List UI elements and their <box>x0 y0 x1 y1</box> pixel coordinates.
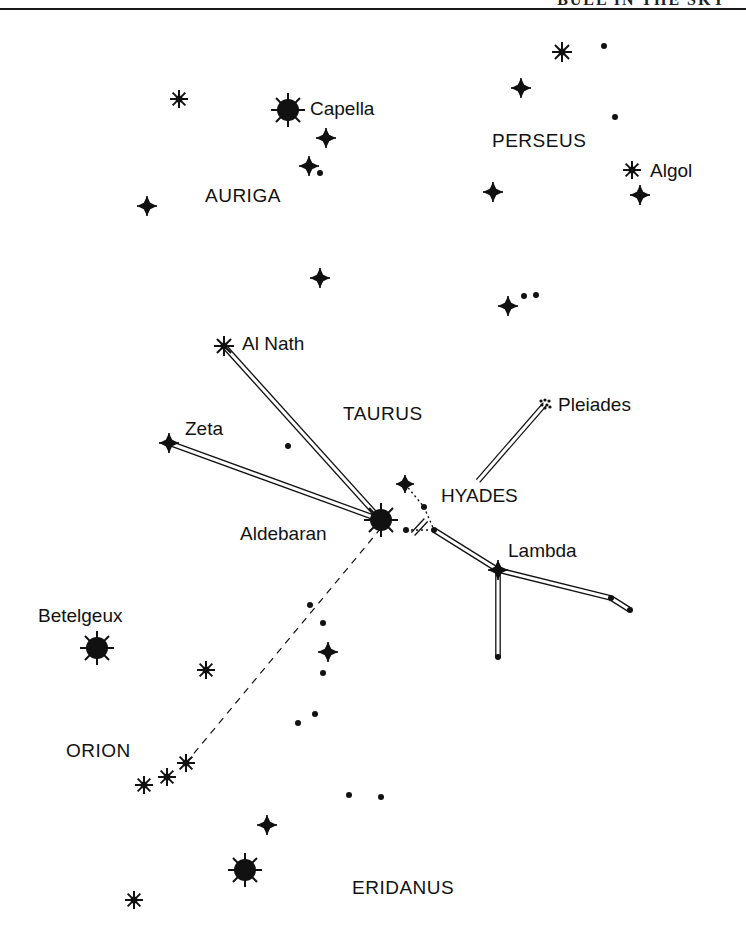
cross-star-icon <box>137 196 157 216</box>
cross-star-icon <box>257 815 277 835</box>
asterisk-star-icon <box>177 754 195 772</box>
faint-star-dot <box>533 292 539 298</box>
star-name-label: HYADES <box>441 485 518 506</box>
faint-star-dot <box>627 607 633 613</box>
constellation-label: ERIDANUS <box>352 877 454 898</box>
star-name-label: Capella <box>310 98 375 119</box>
star-name-label: Aldebaran <box>240 523 327 544</box>
cross-star-icon <box>310 268 330 288</box>
faint-star-dot <box>285 443 291 449</box>
faint-star-dot <box>521 293 527 299</box>
cross-star-icon <box>396 475 414 493</box>
double-line <box>433 528 499 572</box>
constellation-label: TAURUS <box>343 403 423 424</box>
bright-star-icon <box>80 631 114 665</box>
star-name-label: Al Nath <box>242 333 304 354</box>
asterisk-star-icon <box>197 661 215 679</box>
constellation-label: AURIGA <box>205 185 281 206</box>
cross-star-icon <box>316 128 336 148</box>
faint-star-dot <box>307 602 313 608</box>
asterisk-star-icon <box>552 42 572 62</box>
faint-star-dot <box>601 43 607 49</box>
asterisk-star-icon <box>170 90 188 108</box>
faint-star-dot <box>312 711 318 717</box>
double-line <box>222 345 382 522</box>
asterisk-star-icon <box>623 161 641 179</box>
constellation-label: ORION <box>66 740 131 761</box>
cross-star-icon <box>511 78 531 98</box>
star-name-label: Zeta <box>185 418 223 439</box>
star-name-label: Pleiades <box>558 394 631 415</box>
faint-star-dot <box>431 527 437 533</box>
double-line <box>496 570 500 657</box>
cross-star-icon <box>630 185 650 205</box>
asterisk-star-icon <box>125 891 143 909</box>
cross-star-icon <box>159 433 179 453</box>
star-name-label: Lambda <box>508 540 577 561</box>
pleiades-cluster-icon <box>539 398 551 409</box>
dashed-line <box>186 528 381 763</box>
double-line <box>497 568 611 600</box>
bright-star-icon <box>228 853 262 887</box>
faint-star-dot <box>403 527 409 533</box>
faint-star-dot <box>378 794 384 800</box>
asterisk-star-icon <box>135 776 153 794</box>
double-line <box>411 519 427 536</box>
star-field <box>80 42 650 909</box>
faint-star-dot <box>612 114 618 120</box>
cross-star-icon <box>498 296 518 316</box>
asterisk-star-icon <box>158 768 176 786</box>
star-name-label: Betelgeux <box>38 605 123 626</box>
bright-star-icon <box>271 93 305 127</box>
star-chart: AURIGAPERSEUSTAURUSORIONERIDANUSCapellaA… <box>0 0 746 952</box>
star-name-label: Algol <box>650 160 692 181</box>
asterisk-star-icon <box>214 336 234 356</box>
cross-star-icon <box>483 182 503 202</box>
faint-star-dot <box>346 792 352 798</box>
faint-star-dot <box>317 170 323 176</box>
faint-star-dot <box>320 670 326 676</box>
faint-star-dot <box>421 504 427 510</box>
faint-star-dot <box>320 620 326 626</box>
faint-star-dot <box>608 595 614 601</box>
cross-star-icon <box>318 642 338 662</box>
cross-star-icon <box>299 156 319 176</box>
double-line <box>476 403 546 483</box>
constellation-label: PERSEUS <box>492 130 586 151</box>
faint-star-dot <box>495 654 501 660</box>
bright-star-icon <box>364 503 398 537</box>
chart-labels: AURIGAPERSEUSTAURUSORIONERIDANUSCapellaA… <box>38 98 692 898</box>
dotted-line <box>424 507 434 530</box>
faint-star-dot <box>295 720 301 726</box>
